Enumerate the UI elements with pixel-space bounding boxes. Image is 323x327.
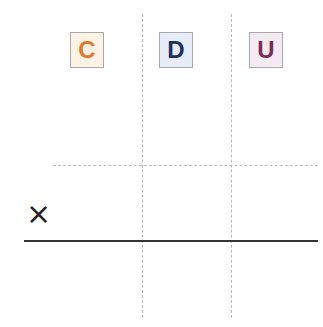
result-line (24, 240, 318, 242)
header-units: U (249, 32, 283, 68)
header-hundreds: C (70, 32, 104, 68)
header-tens: D (159, 32, 193, 68)
column-divider-2 (231, 14, 232, 318)
multiply-sign: × (26, 199, 51, 229)
column-divider-1 (142, 14, 143, 318)
row-divider (53, 165, 318, 166)
